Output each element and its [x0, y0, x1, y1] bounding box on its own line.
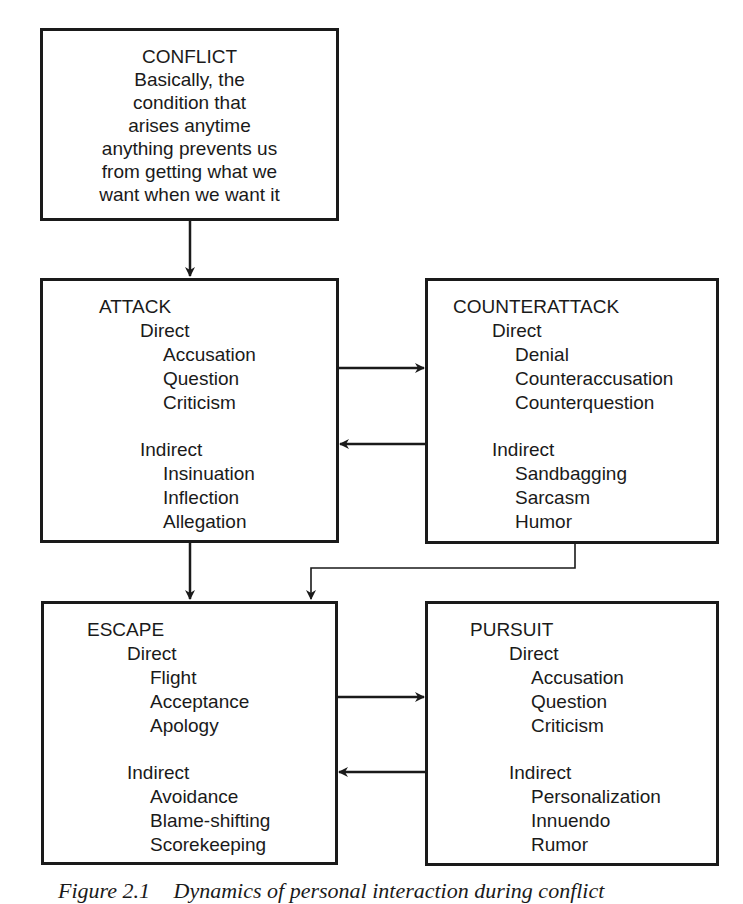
figure-caption: Figure 2.1 Dynamics of personal interact… [58, 878, 604, 904]
conflict-box: CONFLICT Basically, the condition that a… [40, 28, 339, 221]
conflict-title: CONFLICT [43, 45, 336, 68]
pursuit-indirect-item: Rumor [531, 833, 588, 857]
attack-direct-item: Question [163, 367, 239, 391]
conflict-description-line: anything prevents us [43, 137, 336, 160]
pursuit-indirect-item: Personalization [531, 785, 661, 809]
escape-direct-item: Apology [150, 714, 219, 738]
attack-indirect-label: Indirect [140, 438, 202, 462]
attack-title: ATTACK [99, 295, 171, 319]
counterattack-direct-item: Denial [515, 343, 569, 367]
escape-indirect-item: Blame-shifting [150, 809, 270, 833]
arrow-counterattack-to-escape [311, 543, 575, 599]
escape-box: ESCAPE Direct Flight Acceptance Apology … [41, 601, 338, 865]
escape-indirect-item: Scorekeeping [150, 833, 266, 857]
counterattack-direct-item: Counterquestion [515, 391, 654, 415]
counterattack-title: COUNTERATTACK [453, 295, 619, 319]
escape-indirect-label: Indirect [127, 761, 189, 785]
escape-direct-item: Flight [150, 666, 196, 690]
pursuit-box: PURSUIT Direct Accusation Question Criti… [425, 601, 719, 866]
pursuit-direct-item: Question [531, 690, 607, 714]
escape-direct-item: Acceptance [150, 690, 249, 714]
pursuit-indirect-label: Indirect [509, 761, 571, 785]
counterattack-direct-item: Counteraccusation [515, 367, 673, 391]
pursuit-title: PURSUIT [470, 618, 553, 642]
attack-indirect-item: Inflection [163, 486, 239, 510]
figure-number: Figure 2.1 [58, 878, 150, 903]
counterattack-direct-label: Direct [492, 319, 542, 343]
counterattack-indirect-item: Humor [515, 510, 572, 534]
attack-direct-label: Direct [140, 319, 190, 343]
attack-direct-item: Criticism [163, 391, 236, 415]
pursuit-direct-item: Criticism [531, 714, 604, 738]
attack-indirect-item: Insinuation [163, 462, 255, 486]
counterattack-box: COUNTERATTACK Direct Denial Counteraccus… [425, 278, 719, 544]
escape-title: ESCAPE [87, 618, 164, 642]
conflict-description-line: from getting what we [43, 160, 336, 183]
attack-direct-item: Accusation [163, 343, 256, 367]
conflict-description-line: arises anytime [43, 114, 336, 137]
escape-indirect-item: Avoidance [150, 785, 238, 809]
conflict-description-line: condition that [43, 91, 336, 114]
attack-box: ATTACK Direct Accusation Question Critic… [40, 278, 339, 543]
conflict-description-line: want when we want it [43, 183, 336, 206]
pursuit-indirect-item: Innuendo [531, 809, 610, 833]
attack-indirect-item: Allegation [163, 510, 246, 534]
counterattack-indirect-item: Sandbagging [515, 462, 627, 486]
counterattack-indirect-label: Indirect [492, 438, 554, 462]
pursuit-direct-item: Accusation [531, 666, 624, 690]
pursuit-direct-label: Direct [509, 642, 559, 666]
figure-caption-text: Dynamics of personal interaction during … [174, 878, 605, 903]
counterattack-indirect-item: Sarcasm [515, 486, 590, 510]
conflict-description-line: Basically, the [43, 68, 336, 91]
escape-direct-label: Direct [127, 642, 177, 666]
